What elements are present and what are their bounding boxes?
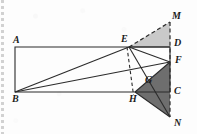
vertex-label-E: E <box>121 34 128 44</box>
vertex-label-G: G <box>145 75 152 85</box>
segment-EF <box>129 47 170 62</box>
vertex-label-B: B <box>12 94 19 104</box>
vertex-label-F: F <box>175 55 182 65</box>
vertex-label-M: M <box>172 11 181 21</box>
vertex-label-C: C <box>174 86 181 96</box>
vertex-label-N: N <box>174 118 181 128</box>
vertex-label-D: D <box>174 38 181 48</box>
geometry-figure: A B C D E F G H M N <box>0 0 197 134</box>
figure-canvas <box>0 0 197 134</box>
vertex-label-A: A <box>13 35 20 45</box>
segment-EH-dashed <box>127 47 134 95</box>
segment-BE <box>15 47 129 92</box>
vertex-label-H: H <box>129 94 137 104</box>
